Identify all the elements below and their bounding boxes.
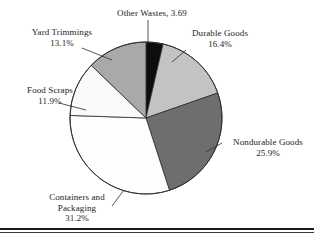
label-nondurable-goods-name: Nondurable Goods [222, 137, 314, 148]
label-food-scraps-value: 11.9% [4, 96, 96, 107]
label-containers-and-packaging: Containers and Packaging 31.2% [30, 192, 124, 224]
footer-divider-secondary [0, 232, 314, 233]
label-food-scraps-name: Food Scraps [4, 85, 96, 96]
label-nondurable-goods-value: 25.9% [222, 148, 314, 159]
label-yard-trimmings: Yard Trimmings 13.1% [10, 27, 114, 48]
label-containers-name-line1: Containers and [30, 192, 124, 203]
label-durable-goods-name: Durable Goods [172, 28, 268, 39]
label-yard-trimmings-name: Yard Trimmings [10, 27, 114, 38]
footer-divider [0, 228, 314, 230]
label-durable-goods: Durable Goods 16.4% [172, 28, 268, 49]
label-food-scraps: Food Scraps 11.9% [4, 85, 96, 106]
label-containers-name-line2: Packaging [30, 203, 124, 214]
label-containers-value: 31.2% [30, 213, 124, 224]
pie-chart-figure: Other Wastes, 3.69 Yard Trimmings 13.1% … [0, 0, 314, 241]
label-other-wastes: Other Wastes, 3.69 [96, 8, 208, 19]
label-durable-goods-value: 16.4% [172, 39, 268, 50]
label-other-wastes-text: Other Wastes, 3.69 [96, 8, 208, 19]
label-yard-trimmings-value: 13.1% [10, 38, 114, 49]
label-nondurable-goods: Nondurable Goods 25.9% [222, 137, 314, 158]
